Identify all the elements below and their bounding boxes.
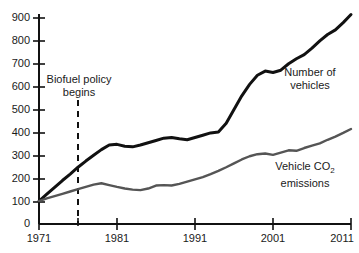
x-tick-label-1981: 1981	[93, 233, 141, 244]
series-label-co2-subscript: 2	[330, 166, 334, 175]
x-tick-label-1971: 1971	[15, 233, 63, 244]
y-tick-label-700: 700	[0, 58, 30, 69]
y-tick-label-900: 900	[0, 12, 30, 23]
chart-container: 900 800 700 600 500 400 300 200 100 0 19…	[0, 0, 359, 253]
series-label-vehicles-line-2: vehicles	[268, 79, 352, 92]
y-tick-label-800: 800	[0, 35, 30, 46]
y-tick-label-100: 100	[0, 196, 30, 207]
series-label-vehicle-co2-emissions: Vehicle CO2 emissions	[255, 160, 355, 190]
series-label-number-of-vehicles: Number of vehicles	[268, 66, 352, 92]
annotation-line-1: Biofuel policy	[33, 73, 125, 86]
chart-plot-area	[0, 0, 359, 253]
series-label-co2-line-2: emissions	[255, 177, 355, 190]
series-label-co2-line-1: Vehicle CO2	[255, 160, 355, 177]
y-tick-label-0: 0	[0, 218, 30, 229]
x-tick-label-2011: 2011	[325, 233, 359, 244]
x-tick-label-2001: 2001	[249, 233, 297, 244]
annotation-line-2: begins	[33, 86, 125, 99]
series-label-vehicles-line-1: Number of	[268, 66, 352, 79]
annotation-biofuel-policy: Biofuel policy begins	[33, 73, 125, 99]
y-tick-label-300: 300	[0, 150, 30, 161]
y-tick-label-200: 200	[0, 173, 30, 184]
x-tick-label-1991: 1991	[171, 233, 219, 244]
y-tick-label-500: 500	[0, 104, 30, 115]
y-tick-label-600: 600	[0, 81, 30, 92]
y-tick-label-400: 400	[0, 127, 30, 138]
series-label-co2-text: Vehicle CO	[275, 160, 330, 172]
